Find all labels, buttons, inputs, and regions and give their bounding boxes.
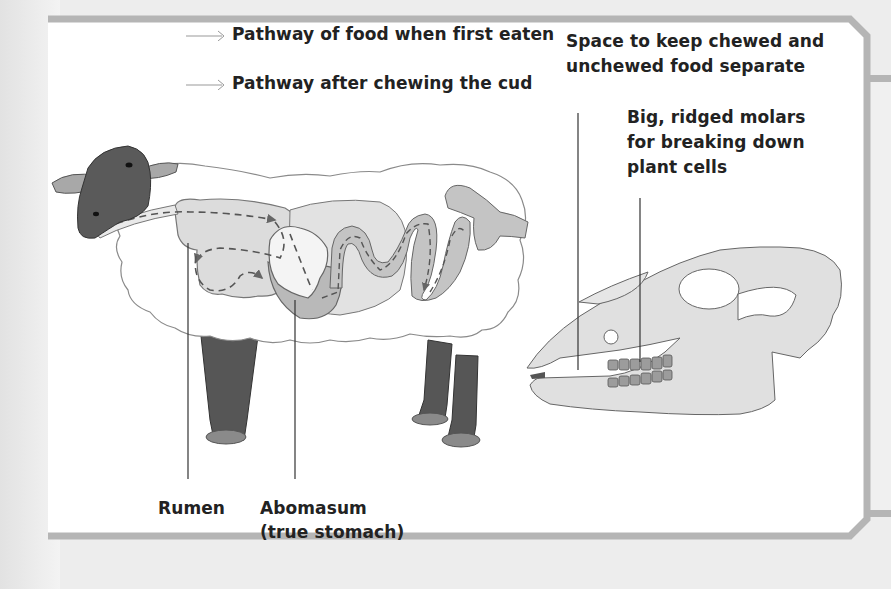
- legend-label: Pathway of food when first eaten: [232, 22, 554, 46]
- callout-molars-line1: Big, ridged molars: [627, 105, 806, 129]
- callout-molars-line2: for breaking down: [627, 130, 805, 154]
- callout-space-line1: Space to keep chewed and: [566, 29, 824, 53]
- callout-abomasum-line1: Abomasum: [260, 496, 367, 520]
- thin-arrow-icon: [186, 27, 226, 41]
- callout-space-line2: unchewed food separate: [566, 54, 805, 78]
- callout-abomasum-line2: (true stomach): [260, 520, 404, 544]
- sheep-skull: [527, 247, 841, 415]
- legend-label: Pathway after chewing the cud: [232, 71, 533, 95]
- thin-arrow-icon: [186, 76, 226, 90]
- legend-item-after-cud: Pathway after chewing the cud: [186, 71, 533, 95]
- legend-item-first-eaten: Pathway of food when first eaten: [186, 22, 554, 46]
- callout-rumen: Rumen: [158, 496, 225, 520]
- sheep-legs: [201, 336, 480, 447]
- callout-molars-line3: plant cells: [627, 155, 727, 179]
